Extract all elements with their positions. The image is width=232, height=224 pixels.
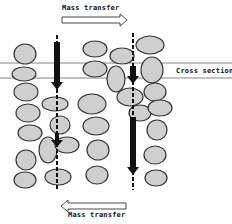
top-mass-transfer-arrow bbox=[62, 14, 127, 26]
particles bbox=[12, 36, 172, 188]
left-flow-path bbox=[51, 35, 63, 190]
mass-transfer-diagram: Mass transfer Cross section Mass transfe… bbox=[0, 0, 232, 224]
cross-section-label: Cross section bbox=[176, 67, 232, 75]
diagram-graphics bbox=[0, 0, 232, 224]
top-mass-transfer-label: Mass transfer bbox=[62, 4, 119, 12]
bottom-mass-transfer-label: Mass transfer bbox=[68, 211, 125, 219]
